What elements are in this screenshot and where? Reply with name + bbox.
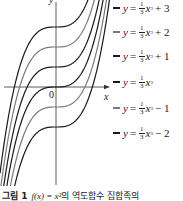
eq-exp: 3: [151, 30, 154, 35]
fraction: 13: [139, 75, 145, 90]
eq-exp: 3: [151, 80, 154, 85]
eq-exp: 3: [151, 54, 154, 59]
eq-const: − 1: [155, 102, 169, 114]
frac-den: 3: [139, 33, 145, 40]
legend-swatch: [113, 107, 120, 109]
eq-sign: =: [130, 102, 136, 114]
frac-den: 3: [139, 134, 145, 141]
eq-const: + 3: [155, 2, 169, 14]
origin-label: 0: [49, 89, 54, 100]
eq-const: + 2: [155, 26, 169, 38]
fraction: 13: [139, 25, 145, 40]
x-axis-arrow-icon: [104, 85, 110, 89]
eq-lhs: y: [123, 102, 128, 114]
eq-sign: =: [130, 127, 136, 139]
eq-const: − 2: [155, 127, 169, 139]
equation-label: y = 13 x3: [123, 75, 155, 90]
eq-const: + 1: [155, 50, 169, 62]
eq-sign: =: [130, 76, 136, 88]
eq-sign: =: [130, 26, 136, 38]
equation-label: y = 13 x3 − 2: [123, 126, 169, 141]
eq-lhs: y: [123, 2, 128, 14]
eq-lhs: y: [123, 76, 128, 88]
legend-item: y = 13 x3 + 2: [113, 22, 169, 42]
legend-item: y = 13 x3 − 1: [113, 98, 169, 118]
legend-swatch: [113, 55, 120, 57]
legend-swatch: [113, 31, 120, 33]
eq-exp: 3: [151, 106, 154, 111]
frac-den: 3: [139, 57, 145, 64]
fraction: 13: [139, 101, 145, 116]
frac-den: 3: [139, 9, 145, 16]
frac-den: 3: [139, 83, 145, 90]
legend-item: y = 13 x3 − 2: [113, 123, 169, 143]
equation-label: y = 13 x3 + 3: [123, 1, 169, 16]
eq-exp: 3: [151, 131, 154, 136]
figure-caption: 그림 1f(x) = x²의 역도함수 집합족의: [2, 189, 139, 201]
eq-sign: =: [130, 50, 136, 62]
y-axis-label: y: [49, 0, 53, 5]
x-axis-label: x: [104, 91, 108, 102]
eq-lhs: y: [123, 26, 128, 38]
legend-swatch: [113, 81, 120, 83]
fraction: 13: [139, 126, 145, 141]
legend-item: y = 13 x3 + 1: [113, 46, 169, 66]
eq-lhs: y: [123, 127, 128, 139]
equation-label: y = 13 x3 − 1: [123, 101, 169, 116]
legend-swatch: [113, 132, 120, 134]
eq-sign: =: [130, 2, 136, 14]
figure-number: 그림 1: [2, 191, 27, 201]
legend-item: y = 13 x3 + 3: [113, 0, 169, 18]
legend-item: y = 13 x3: [113, 72, 155, 92]
equation-label: y = 13 x3 + 2: [123, 25, 169, 40]
caption-function: f(x) = x²: [31, 191, 61, 201]
fraction: 13: [139, 49, 145, 64]
caption-text: 의 역도함수 집합족의: [61, 191, 139, 201]
fraction: 13: [139, 1, 145, 16]
equation-label: y = 13 x3 + 1: [123, 49, 169, 64]
eq-lhs: y: [123, 50, 128, 62]
legend-swatch: [113, 7, 120, 9]
eq-exp: 3: [151, 6, 154, 11]
frac-den: 3: [139, 109, 145, 116]
